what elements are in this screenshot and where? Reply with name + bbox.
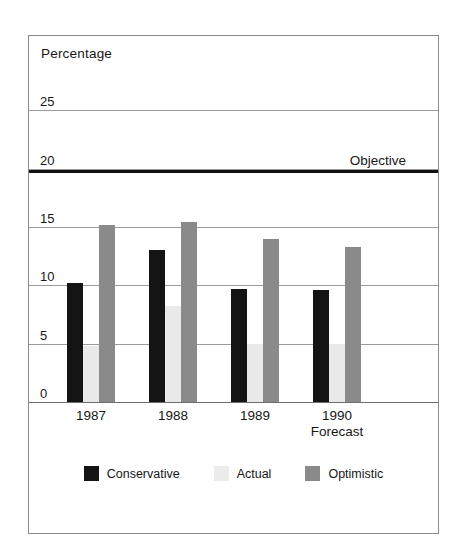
x-axis-label-1988: 1988 <box>158 408 188 424</box>
y-axis-tick-label: 10 <box>29 271 54 285</box>
legend-swatch-optimistic <box>305 466 320 481</box>
bar-optimistic-1989 <box>263 239 279 402</box>
bar-actual-1987 <box>83 346 99 402</box>
y-axis-tick-label: 25 <box>29 96 54 110</box>
legend-label: Optimistic <box>328 467 383 481</box>
legend-label: Actual <box>237 467 272 481</box>
x-axis-label-main: 1987 <box>76 408 106 423</box>
x-axis-label-1989: 1989 <box>240 408 270 424</box>
bar-conservative-1988 <box>149 250 165 402</box>
bar-actual-1990 <box>329 344 345 402</box>
bar-conservative-1987 <box>67 283 83 402</box>
x-axis-label-main: 1988 <box>158 408 188 423</box>
legend-item-actual: Actual <box>214 466 272 481</box>
x-axis-label-1990: 1990Forecast <box>311 408 364 440</box>
y-axis-tick-label: 5 <box>29 329 47 343</box>
legend-swatch-actual <box>214 466 229 481</box>
axis-title: Percentage <box>41 46 112 61</box>
x-axis-label-main: 1989 <box>240 408 270 423</box>
bar-actual-1988 <box>165 306 181 402</box>
y-axis-tick-label: 15 <box>29 212 54 226</box>
x-axis-label-sub: Forecast <box>311 424 364 440</box>
legend-item-conservative: Conservative <box>84 466 180 481</box>
gridline <box>29 227 438 228</box>
gridline <box>29 110 438 111</box>
legend-swatch-conservative <box>84 466 99 481</box>
plot-area: 0510152025Objective <box>29 81 438 402</box>
bar-optimistic-1987 <box>99 225 115 402</box>
chart-frame: Percentage 0510152025Objective 198719881… <box>28 35 439 534</box>
x-axis-label-1987: 1987 <box>76 408 106 424</box>
bar-optimistic-1988 <box>181 222 197 402</box>
y-axis-tick-label: 0 <box>29 387 47 401</box>
legend-label: Conservative <box>107 467 180 481</box>
y-axis-tick-label: 20 <box>29 154 54 168</box>
bar-conservative-1989 <box>231 289 247 402</box>
bar-actual-1989 <box>247 344 263 402</box>
x-axis-label-main: 1990 <box>322 408 352 423</box>
objective-reference-line <box>29 170 438 174</box>
bar-optimistic-1990 <box>345 247 361 402</box>
legend-item-optimistic: Optimistic <box>305 466 383 481</box>
chart-legend: ConservativeActualOptimistic <box>29 466 438 481</box>
objective-label: Objective <box>350 153 406 168</box>
x-axis-baseline <box>29 402 438 403</box>
chart-figure: Percentage 0510152025Objective 198719881… <box>0 0 470 555</box>
gridline <box>29 285 438 286</box>
bar-conservative-1990 <box>313 290 329 402</box>
